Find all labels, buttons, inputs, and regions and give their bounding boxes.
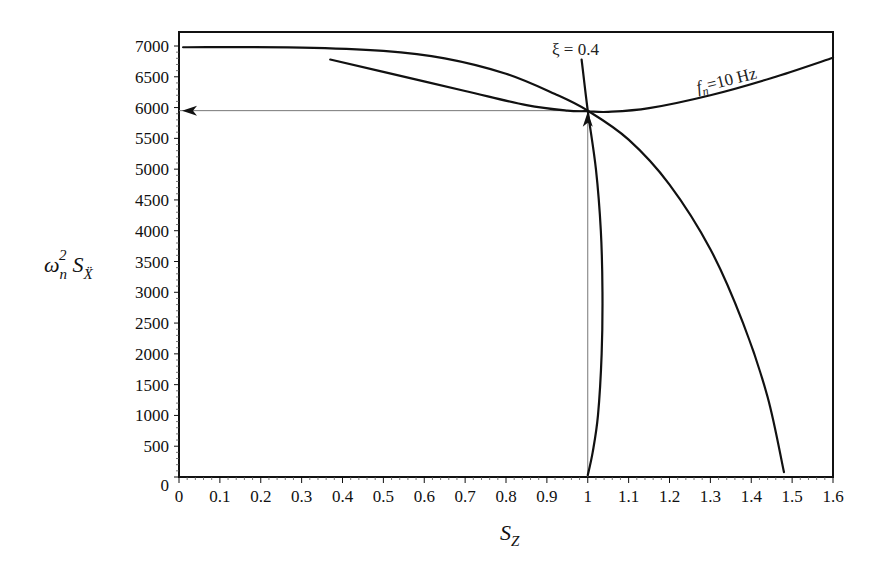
y-tick-label: 3000 <box>135 283 169 302</box>
x-tick-label: 0.5 <box>373 487 394 506</box>
x-tick-label: 1.3 <box>700 487 721 506</box>
x-axis-title: SZ <box>500 520 520 549</box>
guide-lines <box>179 106 593 477</box>
x-tick-label: 0.4 <box>332 487 354 506</box>
x-tick-label: 0.9 <box>536 487 557 506</box>
y-tick-label: 500 <box>144 437 170 456</box>
x-tick-label: 0 <box>175 487 184 506</box>
y-tick-label: 6000 <box>135 99 169 118</box>
y-tick-label: 3500 <box>135 253 169 272</box>
y-tick-label: 5500 <box>135 129 169 148</box>
x-tick-label: 1.1 <box>618 487 639 506</box>
y-tick-label: 5000 <box>135 160 169 179</box>
y-tick-label: 1500 <box>135 376 169 395</box>
x-tick-label: 0.1 <box>209 487 230 506</box>
y-tick-label: 1000 <box>135 406 169 425</box>
y-axis-ticks: 0500100015002000250030003500400045005000… <box>135 37 179 495</box>
x-tick-label: 1 <box>584 487 593 506</box>
y-tick-label: 6500 <box>135 68 169 87</box>
annotation-fn: fn=10 Hz <box>694 63 759 99</box>
y-tick-label: 2000 <box>135 345 169 364</box>
y-tick-label: 0 <box>161 476 170 495</box>
x-tick-label: 1.5 <box>782 487 803 506</box>
x-tick-label: 1.2 <box>659 487 680 506</box>
x-tick-label: 1.4 <box>741 487 763 506</box>
curves <box>183 47 833 475</box>
svg-text:fn=10 Hz: fn=10 Hz <box>694 63 759 99</box>
y-tick-label: 4000 <box>135 222 169 241</box>
y-tick-label: 4500 <box>135 191 169 210</box>
x-tick-label: 0.3 <box>291 487 312 506</box>
x-tick-label: 0.2 <box>250 487 271 506</box>
svg-text:SZ: SZ <box>500 520 520 549</box>
x-tick-label: 0.7 <box>455 487 477 506</box>
chart: 0500100015002000250030003500400045005000… <box>0 0 887 576</box>
y-axis-title: ωn2SẌ <box>44 247 94 282</box>
plot-frame <box>179 32 833 477</box>
x-tick-label: 1.6 <box>822 487 843 506</box>
svg-text:ωn2SẌ: ωn2SẌ <box>44 247 94 282</box>
y-tick-label: 2500 <box>135 314 169 333</box>
x-tick-label: 0.8 <box>495 487 516 506</box>
annotation-xi: ξ = 0.4 <box>552 40 599 59</box>
x-tick-label: 0.6 <box>414 487 435 506</box>
x-axis-ticks: 00.10.20.30.40.50.60.70.80.911.11.21.31.… <box>175 477 844 506</box>
y-tick-label: 7000 <box>135 37 169 56</box>
